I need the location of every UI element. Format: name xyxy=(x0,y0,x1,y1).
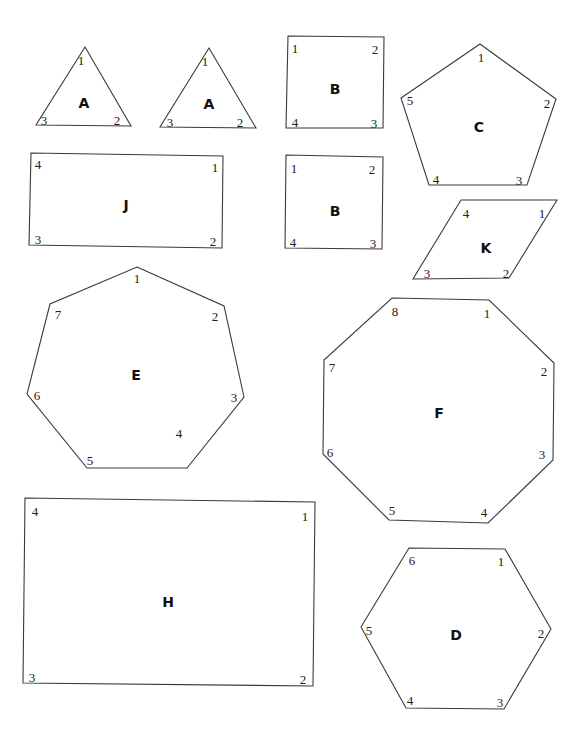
vertex-number: 2 xyxy=(538,626,545,641)
vertex-number: 7 xyxy=(55,307,62,322)
pentagon-outline xyxy=(401,44,556,185)
vertex-number: 8 xyxy=(392,304,399,319)
vertex-number: 3 xyxy=(516,173,523,188)
shape-e-heptagon: E1234567 xyxy=(27,267,244,468)
vertex-number: 3 xyxy=(167,115,174,130)
vertex-number: 4 xyxy=(176,426,183,441)
rectangle-outline xyxy=(23,498,315,686)
vertex-number: 2 xyxy=(237,115,244,130)
shape-a1-triangle: A123 xyxy=(36,47,131,128)
vertex-number: 5 xyxy=(407,93,414,108)
vertex-number: 1 xyxy=(134,271,141,286)
shape-label: E xyxy=(131,367,141,383)
vertex-number: 1 xyxy=(212,160,219,175)
vertex-number: 5 xyxy=(389,503,396,518)
shape-label: K xyxy=(481,240,493,256)
shape-a2-triangle: A123 xyxy=(160,48,256,130)
shape-label: B xyxy=(330,81,341,97)
vertex-number: 1 xyxy=(484,306,491,321)
vertex-number: 1 xyxy=(78,53,85,68)
shape-label: A xyxy=(79,95,90,111)
vertex-number: 4 xyxy=(292,115,299,130)
vertex-number: 4 xyxy=(35,157,42,172)
vertex-number: 3 xyxy=(231,390,238,405)
vertex-number: 4 xyxy=(463,206,470,221)
shape-label: J xyxy=(122,197,128,213)
vertex-number: 3 xyxy=(371,116,378,131)
vertex-number: 6 xyxy=(409,553,416,568)
shape-f-octagon: F12345678 xyxy=(323,298,554,523)
vertex-number: 4 xyxy=(481,505,488,520)
vertex-number: 3 xyxy=(497,695,504,710)
shape-label: F xyxy=(434,405,444,421)
shape-label: C xyxy=(474,119,484,135)
vertex-number: 1 xyxy=(292,41,299,56)
shape-c-pentagon: C12345 xyxy=(401,44,556,188)
shape-b1-square: B1234 xyxy=(286,36,384,131)
vertex-number: 3 xyxy=(424,266,431,281)
shape-d-hexagon: D123456 xyxy=(361,548,551,710)
shapes-diagram: A123A123B1234B1234C12345J1234K1234E12345… xyxy=(0,0,586,743)
shape-label: D xyxy=(450,627,462,643)
vertex-number: 1 xyxy=(478,50,485,65)
vertex-number: 2 xyxy=(210,234,217,249)
vertex-number: 3 xyxy=(41,113,48,128)
vertex-number: 4 xyxy=(32,504,39,519)
vertex-number: 1 xyxy=(302,509,309,524)
shape-b2-square: B1234 xyxy=(285,155,383,251)
vertex-number: 4 xyxy=(433,172,440,187)
vertex-number: 5 xyxy=(87,453,94,468)
vertex-number: 1 xyxy=(291,161,298,176)
vertex-number: 2 xyxy=(503,266,510,281)
vertex-number: 1 xyxy=(539,206,546,221)
vertex-number: 3 xyxy=(35,232,42,247)
vertex-number: 4 xyxy=(407,693,414,708)
vertex-number: 2 xyxy=(541,364,548,379)
vertex-number: 2 xyxy=(300,672,307,687)
vertex-number: 2 xyxy=(372,42,379,57)
vertex-number: 2 xyxy=(114,113,121,128)
vertex-number: 3 xyxy=(29,670,36,685)
vertex-number: 3 xyxy=(370,236,377,251)
shape-label: B xyxy=(330,203,341,219)
vertex-number: 2 xyxy=(212,309,219,324)
shape-h-rectangle: H1234 xyxy=(23,498,315,687)
vertex-number: 4 xyxy=(290,235,297,250)
vertex-number: 5 xyxy=(366,623,373,638)
vertex-number: 2 xyxy=(544,96,551,111)
shape-j-rectangle: J1234 xyxy=(29,153,223,249)
vertex-number: 6 xyxy=(327,445,334,460)
vertex-number: 2 xyxy=(369,162,376,177)
vertex-number: 1 xyxy=(202,54,209,69)
shape-label: A xyxy=(204,96,215,112)
shape-k-parallelogram: K1234 xyxy=(413,200,557,281)
vertex-number: 7 xyxy=(329,360,336,375)
vertex-number: 6 xyxy=(34,388,41,403)
shape-label: H xyxy=(162,594,174,610)
vertex-number: 1 xyxy=(498,554,505,569)
vertex-number: 3 xyxy=(539,447,546,462)
